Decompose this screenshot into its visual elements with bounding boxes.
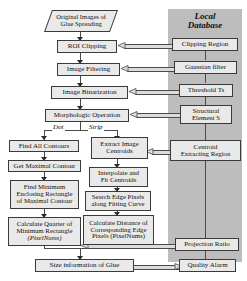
node-search-edge-line2: along Fitting Curve xyxy=(91,201,144,208)
node-quality-alarm-label: Quality Alarm xyxy=(187,262,227,269)
local-database-title-line2: Database xyxy=(168,21,242,30)
node-projection-ratio-label: Projection Ratio xyxy=(184,241,230,248)
node-threshold-ts-label: Threshold Ts xyxy=(188,87,225,94)
node-interpolate-line2: Fit Centroids xyxy=(98,177,139,184)
node-image-binarization-label: Image Binarization xyxy=(63,89,117,96)
node-original-images-line2: Glue Spreading xyxy=(60,20,101,27)
node-calculate-distance-of-edge-pixels: Calculate Distance of Corresponding Edge… xyxy=(83,215,154,245)
node-clipping-region: Clipping Region xyxy=(172,38,238,51)
node-gaussian-filter-label: Gaussian filter xyxy=(185,64,226,71)
node-extract-centroids-line2: Centroids xyxy=(100,148,138,155)
node-extract-image-centroids: Extract Image Centroids xyxy=(91,137,148,159)
connector-morphologic-down xyxy=(80,122,81,130)
node-image-binarization: Image Binarization xyxy=(51,86,128,99)
node-find-min-rect-line3: of Maximal Contour xyxy=(16,198,72,205)
arrowhead-open-clipping-region xyxy=(117,41,126,50)
node-projection-ratio: Projection Ratio xyxy=(175,238,239,251)
node-get-maximal-contour: Get Maximal Contour xyxy=(8,160,81,172)
node-roi-clipping: ROI Clipping xyxy=(57,40,117,53)
node-image-filtering-label: Image Filtering xyxy=(67,66,110,73)
node-search-edge-pixels: Search Edge Pixels along Fitting Curve xyxy=(85,191,151,211)
node-morphologic-operation-label: Morphologic Operation xyxy=(54,112,120,119)
node-find-minimum-enclosing-rectangle: Find Minimum Enclosing Rectangle of Maxi… xyxy=(10,180,79,209)
node-structural-element-s: Structural Element S xyxy=(180,105,232,124)
link-structural-element xyxy=(136,113,180,118)
node-threshold-ts: Threshold Ts xyxy=(179,84,233,97)
node-morphologic-operation: Morphologic Operation xyxy=(45,109,129,122)
branch-label-strip: Strip xyxy=(88,124,104,131)
node-image-filtering: Image Filtering xyxy=(57,63,120,76)
node-find-all-contours: Find All Contours xyxy=(9,140,79,152)
node-structural-element-line2: Element S xyxy=(192,115,220,122)
node-get-maximal-contour-label: Get Maximal Contour xyxy=(14,163,76,170)
link-gaussian-filter xyxy=(127,67,180,72)
link-threshold-ts xyxy=(135,90,180,95)
node-size-information-label: Size information of Glue xyxy=(50,262,120,269)
node-centroid-extracting-region: Centroid Extracting Region xyxy=(170,140,241,161)
connector-db-spine-6 xyxy=(205,251,206,259)
node-quality-alarm: Quality Alarm xyxy=(179,259,236,272)
node-interpolate-and-fit-centroids: Interpolate and Fit Centroids xyxy=(89,167,148,187)
node-calculate-quarter-of-minimum-rectangle: Calculate Quarter of Minimum Rectangle (… xyxy=(8,217,81,246)
node-calc-distance-line3: Pixels (PixelNums) xyxy=(89,233,148,240)
connector-db-spine-2 xyxy=(205,74,206,83)
connector-db-spine-1 xyxy=(205,51,206,60)
node-size-information-of-glue: Size information of Glue xyxy=(35,259,134,272)
node-centroid-region-line2: Extracting Region xyxy=(181,151,231,158)
arrowhead-open-structural-element xyxy=(129,110,138,119)
branch-label-dot: Dot xyxy=(52,124,65,131)
node-calc-quarter-line3: (PixelNums) xyxy=(16,235,72,242)
arrowhead-open-threshold-ts xyxy=(128,87,137,96)
node-find-all-contours-label: Find All Contours xyxy=(19,143,70,150)
connector-db-spine-3 xyxy=(205,97,206,105)
connector-db-spine-4 xyxy=(205,124,206,140)
connector-db-spine-5 xyxy=(205,161,206,238)
local-database-title: Local Database xyxy=(168,12,242,31)
node-original-images: Original Images of Glue Spreading xyxy=(44,10,118,32)
node-gaussian-filter: Gaussian filter xyxy=(174,61,237,74)
node-clipping-region-label: Clipping Region xyxy=(182,41,228,48)
flowchart-diagram: Local Database Dot Strip xyxy=(0,0,247,281)
node-roi-clipping-label: ROI Clipping xyxy=(68,43,106,50)
arrowhead-open-gaussian-filter xyxy=(120,64,129,73)
